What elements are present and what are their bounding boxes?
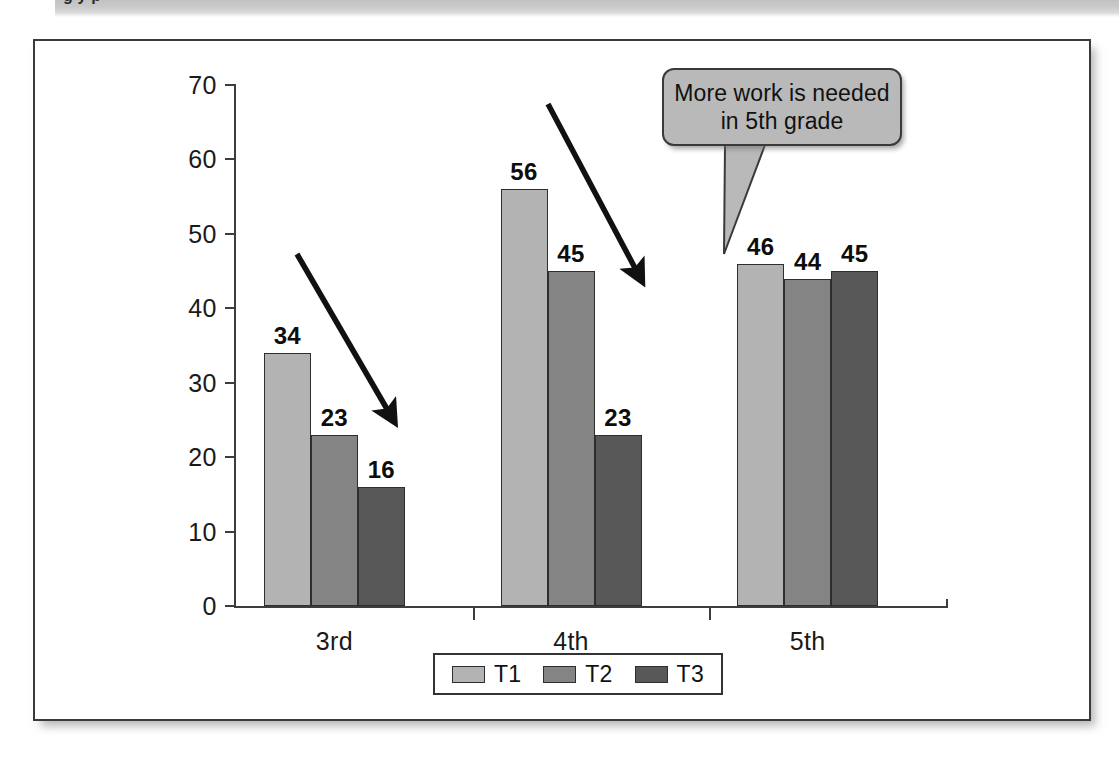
bar-3rd-T1 <box>264 353 311 606</box>
y-axis-tick-label: 60 <box>157 145 217 174</box>
bar-value-label: 56 <box>510 158 537 186</box>
x-axis-label-4th: 4th <box>553 627 589 656</box>
y-axis-tick-label: 20 <box>157 443 217 472</box>
legend-label-T3: T3 <box>677 661 704 688</box>
bar-3rd-T3 <box>358 487 405 606</box>
bar-value-label: 16 <box>368 456 395 484</box>
bar-value-label: 44 <box>794 248 821 276</box>
banner-shadow <box>55 12 1119 17</box>
bar-4th-T3 <box>595 435 642 606</box>
bar-value-label: 23 <box>604 404 631 432</box>
y-axis-tick <box>225 84 234 86</box>
legend-item-T2: T2 <box>543 661 612 688</box>
y-axis-tick <box>225 382 234 384</box>
y-axis-tick-label: 70 <box>157 71 217 100</box>
legend-label-T2: T2 <box>585 661 612 688</box>
legend-swatch-T2 <box>543 666 576 683</box>
bar-chart-plot: 010203040506070 342316564523464445 3rd4t… <box>35 41 1093 723</box>
y-axis-tick <box>225 233 234 235</box>
page-header-banner: g y p <box>55 0 1119 12</box>
y-axis-line <box>234 84 236 608</box>
x-axis-label-3rd: 3rd <box>316 627 353 656</box>
bar-3rd-T2 <box>311 435 358 606</box>
x-axis-line <box>234 606 947 608</box>
y-axis-tick <box>225 605 234 607</box>
legend-label-T1: T1 <box>494 661 521 688</box>
bar-value-label: 46 <box>747 233 774 261</box>
bar-5th-T2 <box>784 279 831 606</box>
bar-5th-T3 <box>831 271 878 606</box>
y-axis-tick-label: 30 <box>157 368 217 397</box>
bar-4th-T2 <box>548 271 595 606</box>
x-axis-label-5th: 5th <box>790 627 826 656</box>
callout-bubble: More work is neededin 5th grade <box>662 68 902 146</box>
y-axis-tick-label: 50 <box>157 219 217 248</box>
banner-text: g y p <box>63 0 101 5</box>
y-axis-tick <box>225 158 234 160</box>
y-axis-tick <box>225 531 234 533</box>
bar-value-label: 23 <box>321 404 348 432</box>
y-axis-tick-label: 10 <box>157 517 217 546</box>
x-axis-category-tick <box>709 608 711 620</box>
y-axis-tick <box>225 307 234 309</box>
bar-value-label: 34 <box>274 322 301 350</box>
bar-value-label: 45 <box>841 240 868 268</box>
bar-4th-T1 <box>501 189 548 606</box>
figure-frame: 010203040506070 342316564523464445 3rd4t… <box>33 39 1091 721</box>
legend-item-T3: T3 <box>635 661 704 688</box>
y-axis-tick <box>225 456 234 458</box>
legend-swatch-T3 <box>635 666 668 683</box>
callout-text: More work is neededin 5th grade <box>664 79 899 135</box>
legend-swatch-T1 <box>452 666 485 683</box>
x-axis-end-tick <box>946 599 948 608</box>
bar-value-label: 45 <box>557 240 584 268</box>
bar-5th-T1 <box>737 264 784 606</box>
legend-item-T1: T1 <box>452 661 521 688</box>
y-axis-tick-label: 0 <box>157 592 217 621</box>
y-axis-tick-label: 40 <box>157 294 217 323</box>
chart-legend: T1T2T3 <box>433 653 723 695</box>
x-axis-category-tick <box>473 608 475 620</box>
